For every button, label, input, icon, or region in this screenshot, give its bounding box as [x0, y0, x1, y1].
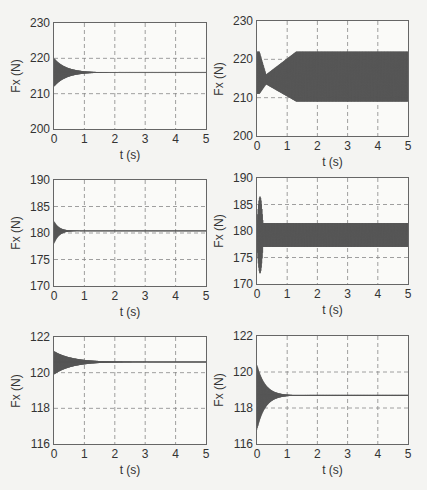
- x-tick-label: 1: [280, 448, 294, 460]
- x-tick-label: 4: [371, 448, 385, 460]
- x-axis-label: t (s): [100, 305, 160, 319]
- x-tick-label: 3: [138, 290, 152, 302]
- plot-svg: [54, 337, 206, 444]
- y-tick-label: 185: [223, 199, 253, 211]
- x-tick-label: 1: [280, 140, 294, 152]
- x-tick-label: 0: [250, 448, 264, 460]
- y-tick-label: 200: [20, 123, 50, 135]
- y-tick-label: 190: [223, 172, 253, 184]
- x-tick-label: 3: [138, 133, 152, 145]
- x-tick-label: 5: [199, 448, 213, 460]
- y-axis-label: Fx (N): [212, 365, 226, 415]
- x-tick-label: 2: [310, 448, 324, 460]
- y-tick-label: 175: [223, 252, 253, 264]
- x-axis-label: t (s): [303, 155, 363, 169]
- x-tick-label: 5: [401, 448, 415, 460]
- x-tick-label: 0: [250, 140, 264, 152]
- x-axis-label: t (s): [100, 148, 160, 162]
- y-tick-label: 220: [20, 52, 50, 64]
- y-tick-label: 170: [223, 278, 253, 290]
- x-tick-label: 2: [108, 290, 122, 302]
- y-tick-label: 230: [223, 15, 253, 27]
- y-tick-label: 122: [20, 331, 50, 343]
- y-axis-label: Fx (N): [212, 206, 226, 256]
- plot-svg: [257, 21, 408, 136]
- x-tick-label: 0: [47, 290, 61, 302]
- x-tick-label: 2: [310, 140, 324, 152]
- y-axis-label: Fx (N): [9, 366, 23, 416]
- plot-svg: [257, 336, 408, 444]
- x-tick-label: 0: [47, 133, 61, 145]
- plot-svg: [54, 180, 206, 286]
- plot-area: [53, 22, 207, 130]
- x-tick-label: 4: [169, 448, 183, 460]
- y-tick-label: 175: [20, 254, 50, 266]
- x-tick-label: 1: [77, 290, 91, 302]
- y-tick-label: 220: [223, 53, 253, 65]
- x-tick-label: 4: [169, 290, 183, 302]
- x-tick-label: 0: [47, 448, 61, 460]
- plot-area: [256, 335, 409, 445]
- x-tick-label: 5: [199, 290, 213, 302]
- x-tick-label: 2: [310, 288, 324, 300]
- signal-trace: [257, 197, 408, 274]
- x-tick-label: 0: [250, 288, 264, 300]
- y-tick-label: 185: [20, 201, 50, 213]
- plot-area: [53, 179, 207, 287]
- plot-area: [256, 177, 409, 285]
- x-tick-label: 4: [169, 133, 183, 145]
- x-tick-label: 5: [401, 288, 415, 300]
- plot-area: [256, 20, 409, 137]
- x-tick-label: 5: [199, 133, 213, 145]
- y-tick-label: 120: [20, 367, 50, 379]
- x-tick-label: 1: [280, 288, 294, 300]
- x-axis-label: t (s): [303, 463, 363, 477]
- x-tick-label: 3: [341, 288, 355, 300]
- y-axis-label: Fx (N): [212, 54, 226, 104]
- signal-trace: [257, 366, 408, 430]
- x-axis-label: t (s): [303, 303, 363, 317]
- y-tick-label: 210: [223, 92, 253, 104]
- y-tick-label: 122: [223, 330, 253, 342]
- x-tick-label: 3: [341, 448, 355, 460]
- signal-trace: [54, 351, 206, 374]
- x-tick-label: 5: [401, 140, 415, 152]
- y-tick-label: 118: [223, 402, 253, 414]
- y-tick-label: 180: [223, 225, 253, 237]
- y-axis-label: Fx (N): [9, 208, 23, 258]
- y-tick-label: 230: [20, 17, 50, 29]
- x-tick-label: 3: [138, 448, 152, 460]
- x-tick-label: 3: [341, 140, 355, 152]
- x-axis-label: t (s): [100, 463, 160, 477]
- plot-svg: [257, 178, 408, 284]
- x-tick-label: 2: [108, 448, 122, 460]
- y-tick-label: 180: [20, 227, 50, 239]
- y-tick-label: 116: [20, 438, 50, 450]
- y-tick-label: 116: [223, 438, 253, 450]
- x-tick-label: 2: [108, 133, 122, 145]
- plot-svg: [54, 23, 206, 129]
- y-tick-label: 170: [20, 280, 50, 292]
- x-tick-label: 4: [371, 140, 385, 152]
- y-tick-label: 118: [20, 402, 50, 414]
- y-tick-label: 210: [20, 88, 50, 100]
- y-axis-label: Fx (N): [9, 51, 23, 101]
- x-tick-label: 1: [77, 133, 91, 145]
- x-tick-label: 4: [371, 288, 385, 300]
- y-tick-label: 200: [223, 130, 253, 142]
- plot-area: [53, 336, 207, 445]
- y-tick-label: 190: [20, 174, 50, 186]
- y-tick-label: 120: [223, 366, 253, 378]
- x-tick-label: 1: [77, 448, 91, 460]
